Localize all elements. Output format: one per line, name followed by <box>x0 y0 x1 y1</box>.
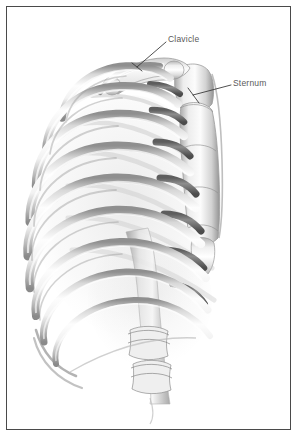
figure-root: Clavicle Sternum <box>0 0 299 438</box>
label-clavicle: Clavicle <box>168 35 199 44</box>
label-sternum: Sternum <box>233 79 267 88</box>
rib-cage-illustration <box>0 0 299 438</box>
